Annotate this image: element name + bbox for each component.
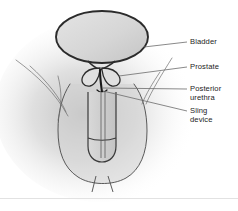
- penile-shaft: [88, 92, 116, 162]
- bottom-divider: [0, 198, 238, 199]
- label-sling-device: Sling device: [190, 107, 213, 124]
- label-bladder: Bladder: [190, 38, 217, 47]
- label-posterior-urethra: Posterior urethra: [190, 85, 221, 102]
- label-prostate: Prostate: [190, 63, 219, 72]
- illustration-page: Bladder Prostate Posterior urethra Sling…: [0, 0, 238, 211]
- bladder: [56, 11, 148, 63]
